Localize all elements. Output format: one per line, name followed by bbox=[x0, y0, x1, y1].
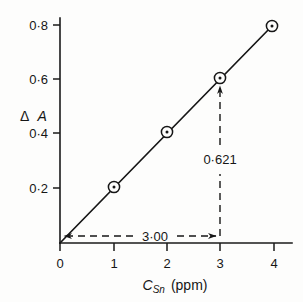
y-axis-tick-labels: 0·8 0·6 0·4 0·2 bbox=[29, 18, 48, 196]
y-tick-label-2: 0·4 bbox=[29, 126, 48, 141]
svg-text:CSn(ppm): CSn(ppm) bbox=[143, 277, 208, 295]
absorbance-annotation-label: 0·621 bbox=[203, 152, 236, 167]
x-axis-tick-labels: 0 1 2 3 4 bbox=[56, 256, 277, 271]
concentration-annotation-label: 3·00 bbox=[142, 229, 168, 244]
y-tick-label-3: 0·2 bbox=[29, 181, 48, 196]
chart-canvas: 0·8 0·6 0·4 0·2 0 1 2 3 4 Δ A CSn(ppm) bbox=[0, 0, 303, 302]
data-point-4 bbox=[266, 20, 277, 31]
data-point-1 bbox=[108, 181, 119, 192]
absorbance-annotation: 0·621 bbox=[203, 86, 236, 236]
x-tick-label-4: 4 bbox=[270, 256, 277, 271]
y-tick-label-0: 0·8 bbox=[29, 18, 48, 33]
x-axis-title: CSn(ppm) bbox=[143, 277, 208, 295]
x-axis-title-units: (ppm) bbox=[171, 277, 208, 293]
svg-text:Δ A: Δ A bbox=[20, 108, 47, 124]
y-axis-title-variable: A bbox=[36, 108, 46, 124]
data-point-3 bbox=[214, 72, 225, 83]
x-tick-label-1: 1 bbox=[110, 256, 117, 271]
y-tick-label-1: 0·6 bbox=[29, 72, 48, 87]
concentration-annotation: 3·00 bbox=[64, 229, 216, 244]
x-axis-ticks bbox=[60, 243, 274, 251]
y-axis-ticks bbox=[53, 25, 60, 188]
x-axis-title-subscript: Sn bbox=[153, 284, 166, 295]
calibration-curve-figure: 0·8 0·6 0·4 0·2 0 1 2 3 4 Δ A CSn(ppm) bbox=[0, 0, 303, 302]
data-point-2 bbox=[161, 126, 172, 137]
x-tick-label-3: 3 bbox=[216, 256, 223, 271]
x-tick-label-2: 2 bbox=[163, 256, 170, 271]
y-axis-title: Δ A bbox=[20, 108, 47, 124]
y-axis-title-delta: Δ bbox=[20, 108, 29, 124]
x-tick-label-0: 0 bbox=[56, 256, 63, 271]
axes-group bbox=[60, 18, 292, 243]
